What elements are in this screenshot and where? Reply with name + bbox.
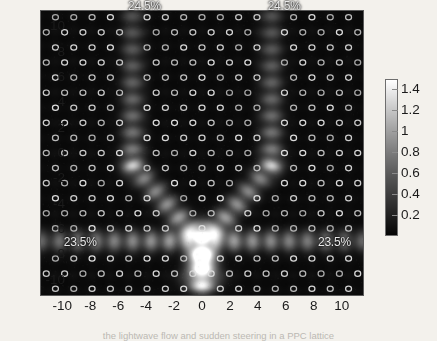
- colorbar-tick-0.2: 0.2: [401, 208, 420, 222]
- air-hole: [309, 226, 315, 231]
- air-hole: [346, 45, 352, 50]
- air-hole: [71, 196, 77, 201]
- air-hole: [52, 286, 58, 291]
- air-hole: [199, 196, 205, 201]
- air-hole: [327, 45, 333, 50]
- air-hole: [327, 105, 333, 110]
- air-hole: [199, 135, 205, 140]
- air-hole: [318, 180, 324, 185]
- air-hole: [355, 60, 361, 65]
- air-hole: [355, 150, 361, 155]
- air-hole: [254, 256, 260, 261]
- air-hole: [89, 165, 95, 170]
- colorbar-tick-1.4: 1.4: [401, 83, 420, 97]
- y-tick--2: -2: [31, 172, 65, 186]
- air-hole: [318, 271, 324, 276]
- air-hole: [153, 150, 159, 155]
- air-hole: [336, 120, 342, 125]
- air-hole: [199, 105, 205, 110]
- air-hole: [236, 15, 242, 20]
- colorbar-notch-0.4: [392, 194, 398, 195]
- air-hole: [272, 286, 278, 291]
- air-hole: [254, 165, 260, 170]
- air-hole: [254, 45, 260, 50]
- y-tick-10: 10: [31, 20, 65, 34]
- air-hole: [80, 60, 86, 65]
- colorbar-tick-0.8: 0.8: [401, 146, 420, 160]
- air-hole: [80, 271, 86, 276]
- colorbar-tick-1: 1: [401, 125, 409, 139]
- air-hole: [153, 271, 159, 276]
- colorbar-tick-0.6: 0.6: [401, 166, 420, 180]
- air-hole: [144, 165, 150, 170]
- air-hole: [71, 15, 77, 20]
- air-hole: [318, 60, 324, 65]
- air-hole: [117, 271, 123, 276]
- air-hole: [355, 211, 361, 216]
- air-hole: [336, 60, 342, 65]
- air-hole: [346, 75, 352, 80]
- air-hole: [346, 196, 352, 201]
- air-hole: [199, 45, 205, 50]
- air-hole: [346, 165, 352, 170]
- air-hole: [291, 135, 297, 140]
- air-hole: [217, 15, 223, 20]
- air-hole: [318, 150, 324, 155]
- air-hole: [181, 15, 187, 20]
- air-hole: [236, 105, 242, 110]
- air-hole: [300, 90, 306, 95]
- air-hole: [181, 75, 187, 80]
- air-hole: [153, 120, 159, 125]
- air-hole: [300, 211, 306, 216]
- colorbar-notch-1.2: [392, 110, 398, 111]
- air-hole: [107, 45, 113, 50]
- air-hole: [291, 196, 297, 201]
- air-hole: [336, 211, 342, 216]
- port-bottom-right-label: 23.5%: [318, 236, 351, 248]
- air-hole: [254, 75, 260, 80]
- air-hole: [153, 30, 159, 35]
- air-hole: [80, 180, 86, 185]
- air-hole: [236, 135, 242, 140]
- air-hole: [263, 271, 269, 276]
- air-hole: [217, 135, 223, 140]
- air-hole: [291, 226, 297, 231]
- air-hole: [89, 286, 95, 291]
- air-hole: [272, 226, 278, 231]
- air-hole: [162, 15, 168, 20]
- air-hole: [272, 196, 278, 201]
- air-hole: [190, 271, 196, 276]
- air-hole: [126, 196, 132, 201]
- air-hole: [291, 75, 297, 80]
- air-hole: [144, 196, 150, 201]
- air-hole: [208, 150, 214, 155]
- air-hole: [117, 211, 123, 216]
- air-hole: [144, 256, 150, 261]
- figure-container: 1086420-2-4-6-8-10 -10-8-6-4-20246810 24…: [0, 0, 437, 341]
- air-hole: [291, 105, 297, 110]
- air-hole: [71, 165, 77, 170]
- y-tick-0: 0: [31, 146, 65, 160]
- air-hole: [291, 165, 297, 170]
- air-hole: [208, 30, 214, 35]
- air-hole: [172, 60, 178, 65]
- air-hole: [309, 286, 315, 291]
- air-hole: [254, 105, 260, 110]
- air-hole: [245, 120, 251, 125]
- air-hole: [199, 165, 205, 170]
- figure-caption: the lightwave flow and sudden steering i…: [0, 331, 437, 341]
- air-hole: [126, 286, 132, 291]
- air-hole: [181, 135, 187, 140]
- air-hole: [43, 211, 49, 216]
- air-hole: [254, 226, 260, 231]
- air-hole: [226, 90, 232, 95]
- air-hole: [80, 150, 86, 155]
- colorbar-notch-0.8: [392, 152, 398, 153]
- air-hole: [181, 165, 187, 170]
- air-hole: [107, 75, 113, 80]
- air-hole: [98, 211, 104, 216]
- air-hole: [43, 90, 49, 95]
- air-hole: [318, 120, 324, 125]
- air-hole: [327, 15, 333, 20]
- air-hole: [80, 120, 86, 125]
